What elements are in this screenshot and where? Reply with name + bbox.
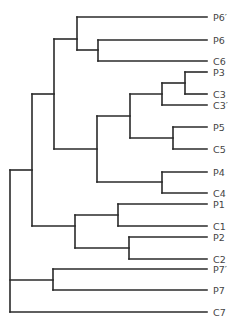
leaf-label-p5: P5 (213, 122, 225, 133)
leaf-label-p2: P2 (213, 232, 225, 243)
leaf-label-c3: C3 (213, 89, 226, 100)
leaf-label-p3: P3 (213, 67, 225, 78)
leaf-label-c7: C7 (213, 307, 226, 318)
leaf-label-p6: P6 (213, 35, 225, 46)
leaf-label-p7: P7 (213, 285, 225, 296)
leaf-label-p4: P4 (213, 167, 225, 178)
leaf-label-p1: P1 (213, 199, 225, 210)
leaf-label-c3prime: C3′ (213, 100, 228, 111)
dendrogram-branches (10, 17, 207, 312)
leaf-label-c1: C1 (213, 221, 226, 232)
leaf-label-c4: C4 (213, 188, 226, 199)
leaf-label-c5: C5 (213, 144, 226, 155)
leaf-label-p7prime: P7′ (213, 264, 227, 275)
leaf-labels: P6′ P6 C6 P3 C3 C3′ P5 C5 P4 C4 P1 C1 P2… (213, 12, 228, 318)
leaf-label-c6: C6 (213, 56, 226, 67)
dendrogram: P6′ P6 C6 P3 C3 C3′ P5 C5 P4 C4 P1 C1 P2… (0, 0, 244, 334)
leaf-label-p6prime: P6′ (213, 12, 227, 23)
